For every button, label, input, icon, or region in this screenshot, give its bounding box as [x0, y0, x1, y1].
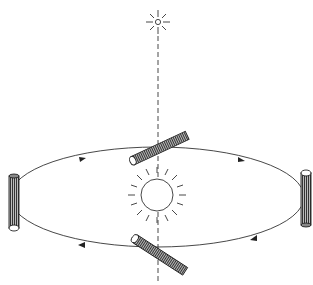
rod-right [301, 170, 311, 227]
arrow-icon [79, 157, 86, 162]
sun-icon [128, 167, 186, 223]
diagram-canvas [0, 0, 313, 285]
arrow-icon [238, 157, 245, 162]
distant-star-icon [146, 10, 170, 34]
orbit-diagram [0, 0, 313, 285]
arrow-icon [78, 242, 85, 248]
rod-top [128, 131, 189, 166]
rod-bottom [130, 233, 188, 275]
rod-left [9, 174, 19, 231]
